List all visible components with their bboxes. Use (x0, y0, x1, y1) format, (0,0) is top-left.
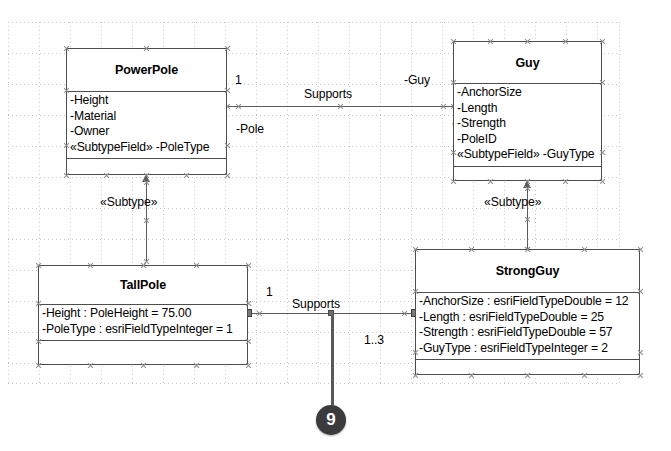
class-box-strongguy[interactable]: StrongGuy -AnchorSize : esriFieldTypeDou… (415, 249, 640, 375)
attribute: -AnchorSize (457, 85, 601, 101)
class-name-guy: Guy (454, 42, 601, 83)
class-box-powerpole[interactable]: PowerPole -Height -Material -Owner «Subt… (66, 48, 227, 175)
class-name-strongguy: StrongGuy (416, 250, 639, 292)
class-attributes-powerpole: -Height -Material -Owner «SubtypeField» … (67, 92, 226, 157)
generalization-stereotype-right: «Subtype» (484, 195, 541, 209)
class-name-tallpole: TallPole (39, 266, 247, 304)
class-operations-tallpole (39, 341, 247, 365)
class-box-tallpole[interactable]: TallPole -Height : PoleHeight = 75.00 -P… (38, 265, 248, 365)
association-line-powerpole-guy[interactable] (227, 106, 453, 107)
callout-leader-line (331, 315, 334, 405)
attribute: -PoleType : esriFieldTypeInteger = 1 (42, 322, 247, 338)
class-operations-strongguy (416, 360, 639, 380)
callout-badge-number: 9 (326, 410, 335, 430)
attribute: -Strength (457, 116, 601, 132)
attribute: «SubtypeField» -GuyType (457, 147, 601, 163)
association-source-role-top: -Pole (236, 122, 264, 136)
attribute: -GuyType : esriFieldTypeInteger = 2 (419, 341, 639, 357)
diagram-canvas: 1 Supports -Guy -Pole * PowerPole -Heigh… (0, 0, 671, 451)
attribute: «SubtypeField» -PoleType (70, 140, 226, 156)
callout-badge-9[interactable]: 9 (316, 405, 346, 435)
generalization-stereotype-left: «Subtype» (100, 195, 157, 209)
class-attributes-strongguy: -AnchorSize : esriFieldTypeDouble = 12 -… (416, 293, 639, 358)
attribute: -Strength : esriFieldTypeDouble = 57 (419, 325, 639, 341)
attribute: -Length : esriFieldTypeDouble = 25 (419, 310, 639, 326)
association-name-bottom: Supports (292, 297, 340, 311)
generalization-line-tallpole-powerpole[interactable] (146, 182, 147, 261)
class-attributes-tallpole: -Height : PoleHeight = 75.00 -PoleType :… (39, 305, 247, 339)
attribute: -Material (70, 109, 226, 125)
attribute: -Height (70, 93, 226, 109)
attribute: -Owner (70, 124, 226, 140)
class-box-guy[interactable]: Guy -AnchorSize -Length -Strength -PoleI… (453, 41, 602, 181)
generalization-arrowhead (523, 181, 531, 188)
association-target-role-top: -Guy (404, 73, 430, 87)
class-attributes-guy: -AnchorSize -Length -Strength -PoleID «S… (454, 84, 601, 165)
association-name-top: Supports (304, 87, 352, 101)
generalization-arrowhead (142, 175, 150, 182)
association-source-multiplicity-bottom: 1 (266, 285, 273, 299)
class-name-powerpole: PowerPole (67, 49, 226, 91)
association-target-multiplicity-bottom: 1..3 (364, 333, 384, 347)
attribute: -Length (457, 101, 601, 117)
attribute: -AnchorSize : esriFieldTypeDouble = 12 (419, 294, 639, 310)
attribute: -PoleID (457, 132, 601, 148)
association-source-multiplicity-top: 1 (235, 73, 242, 87)
attribute: -Height : PoleHeight = 75.00 (42, 306, 247, 322)
